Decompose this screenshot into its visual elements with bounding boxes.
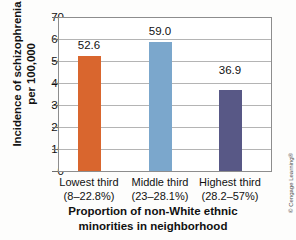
bar-value-highest-third: 36.9 bbox=[202, 64, 258, 76]
bar-highest-third[interactable] bbox=[219, 90, 242, 171]
x-axis-title-line-1: Proportion of non-White ethnic bbox=[40, 204, 266, 219]
x-axis-title: Proportion of non-White ethnic minoritie… bbox=[40, 204, 266, 233]
bar-value-lowest-third: 52.6 bbox=[61, 39, 117, 51]
x-category-highest-third-line-2: (28.2–57%) bbox=[188, 190, 272, 204]
chart-figure: Incidence of schizophrenia per 100,000 7… bbox=[0, 0, 296, 240]
copyright-credit: © Cengage Learning® bbox=[288, 137, 294, 229]
bar-value-middle-third: 59.0 bbox=[132, 25, 188, 37]
x-axis-title-line-2: minorities in neighborhood bbox=[40, 219, 266, 234]
y-axis-title-line-1: Incidence of schizophrenia bbox=[10, 0, 24, 152]
x-category-highest-third: Highest third (28.2–57%) bbox=[188, 176, 272, 203]
x-category-highest-third-line-1: Highest third bbox=[188, 176, 272, 190]
bar-middle-third[interactable] bbox=[149, 42, 172, 171]
bar-lowest-third[interactable] bbox=[78, 56, 101, 171]
